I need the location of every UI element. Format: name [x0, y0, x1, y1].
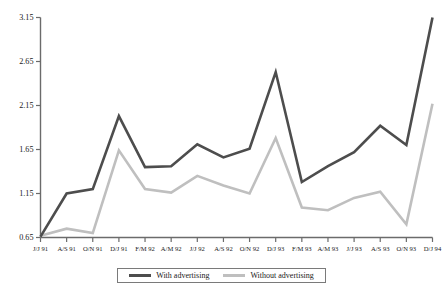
x-tick-label: J/J 92: [190, 245, 205, 252]
legend-item-with-advertising: With advertising: [129, 271, 209, 280]
y-tick-label: 3.15: [19, 13, 33, 22]
x-tick-label: O/N 91: [83, 245, 103, 252]
chart-container: 0.651.151.652.152.653.15 J/J 91A/S 91O/N…: [0, 0, 445, 290]
y-tick-label: 2.65: [19, 57, 33, 66]
x-tick-label: J/J 91: [33, 245, 48, 252]
x-tick-label: O/N 93: [397, 245, 417, 252]
x-tick-label: A/M 92: [161, 245, 182, 252]
x-tick-label: A/S 93: [371, 245, 390, 252]
x-tick-label: D/J 91: [110, 245, 127, 252]
x-tick-label: J/J 93: [346, 245, 362, 252]
legend-item-without-advertising: Without advertising: [223, 271, 313, 280]
y-axis: 0.651.151.652.152.653.15: [19, 13, 40, 242]
line-chart-plot: 0.651.151.652.152.653.15 J/J 91A/S 91O/N…: [0, 0, 445, 290]
x-tick-label: O/N 92: [240, 245, 260, 252]
y-tick-label: 1.15: [19, 189, 33, 198]
x-tick-label: A/S 92: [214, 245, 233, 252]
x-tick-label: F/M 93: [292, 245, 312, 252]
x-tick-label: A/M 93: [318, 245, 339, 252]
data-series-group: [41, 18, 433, 237]
x-tick-label: F/M 92: [135, 245, 155, 252]
y-tick-label: 2.15: [19, 101, 33, 110]
series-line-with-advertising: [41, 18, 433, 237]
legend-swatch-without-advertising: [223, 274, 245, 277]
x-axis: J/J 91A/S 91O/N 91D/J 91F/M 92A/M 92J/J …: [33, 238, 442, 252]
legend-swatch-with-advertising: [129, 274, 151, 277]
legend-label-with-advertising: With advertising: [156, 271, 209, 280]
x-tick-label: D/J 93: [267, 245, 285, 252]
y-tick-label: 0.65: [19, 233, 33, 242]
x-tick-label: A/S 91: [57, 245, 76, 252]
chart-legend: With advertising Without advertising: [117, 268, 326, 283]
y-tick-label: 1.65: [19, 145, 33, 154]
x-tick-label: D/J 94: [424, 245, 442, 252]
legend-label-without-advertising: Without advertising: [250, 271, 313, 280]
